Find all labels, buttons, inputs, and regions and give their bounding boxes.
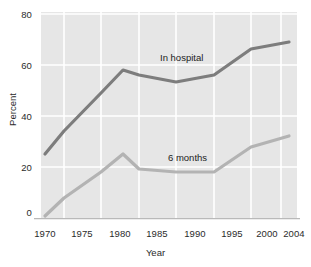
series-label-6-months: 6 months (168, 152, 207, 163)
x-tick-1970: 1970 (28, 228, 62, 239)
chart-figure: 80 60 40 20 0 Percent 1970 1975 1980 198… (0, 0, 311, 267)
x-tick-1990: 1990 (178, 228, 212, 239)
y-axis-title: Percent (7, 80, 18, 140)
x-axis-title: Year (0, 247, 311, 258)
x-tick-1980: 1980 (103, 228, 137, 239)
y-tick-80: 80 (10, 9, 32, 20)
x-tick-2004: 2004 (277, 228, 311, 239)
y-tick-20: 20 (10, 162, 32, 173)
y-tick-60: 60 (10, 60, 32, 71)
y-tick-0: 0 (10, 207, 32, 218)
x-tick-1985: 1985 (140, 228, 174, 239)
series-label-in-hospital: In hospital (160, 52, 203, 63)
x-tick-1975: 1975 (65, 228, 99, 239)
x-tick-1995: 1995 (215, 228, 249, 239)
chart-plot-canvas (0, 0, 311, 267)
